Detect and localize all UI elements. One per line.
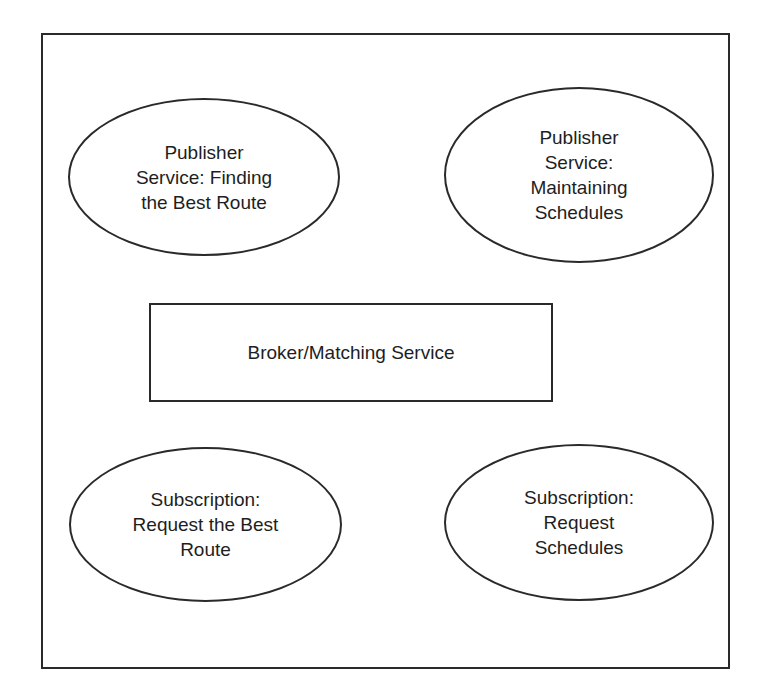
publisher-service-finding-best-route-node: Publisher Service: Finding the Best Rout… <box>68 98 340 256</box>
node-label: Subscription: Request Schedules <box>524 485 634 560</box>
publisher-service-maintaining-schedules-node: Publisher Service: Maintaining Schedules <box>444 87 714 263</box>
subscription-request-best-route-node: Subscription: Request the Best Route <box>69 447 342 602</box>
subscription-request-schedules-node: Subscription: Request Schedules <box>444 444 714 601</box>
node-label: Publisher Service: Maintaining Schedules <box>530 125 627 225</box>
node-label: Publisher Service: Finding the Best Rout… <box>136 140 272 215</box>
node-label: Broker/Matching Service <box>248 340 455 365</box>
node-label: Subscription: Request the Best Route <box>133 487 279 562</box>
broker-matching-service-node: Broker/Matching Service <box>149 303 553 402</box>
